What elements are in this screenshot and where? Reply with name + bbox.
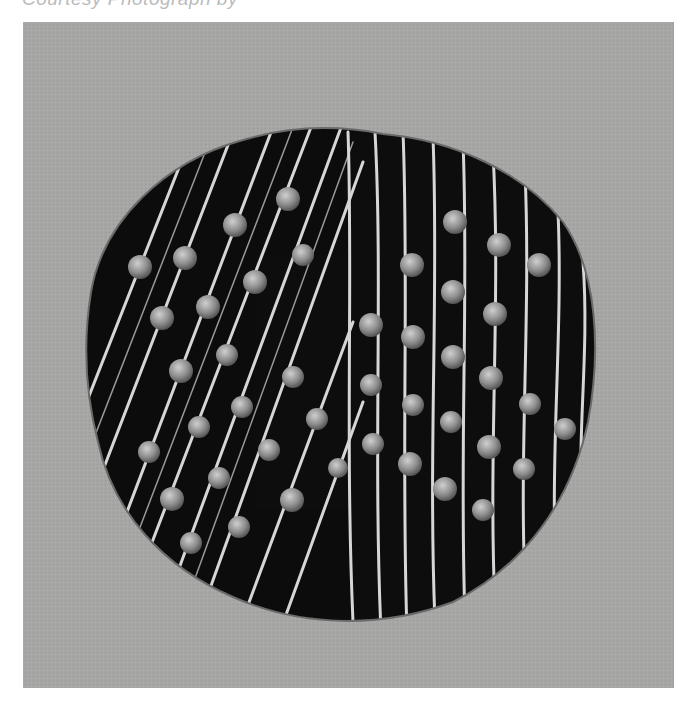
disc-illustration [23, 22, 674, 688]
photo-caption: Courtesy Photograph by [22, 0, 238, 10]
caption-area: Courtesy Photograph by [0, 0, 697, 10]
photograph [23, 22, 674, 688]
